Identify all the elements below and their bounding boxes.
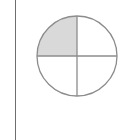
fraction-circle-diagram [0,0,131,140]
